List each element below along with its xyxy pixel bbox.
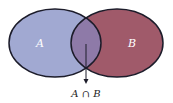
set-b-label: B: [127, 37, 136, 50]
arrowhead-icon: [84, 79, 89, 84]
intersection-label: A ∩ B: [70, 88, 100, 99]
set-a-label: A: [35, 37, 44, 50]
venn-diagram: A B A ∩ B: [0, 0, 173, 103]
